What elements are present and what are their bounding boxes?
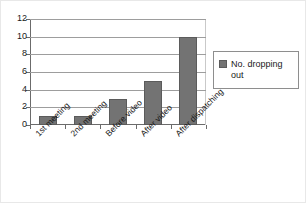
- chart-screenshot: 024681012 1st meeting2nd meetingBefore v…: [0, 0, 306, 203]
- y-axis-tick-label: 4: [5, 85, 27, 94]
- legend-entry: No. dropping out: [219, 59, 294, 81]
- y-axis-tick-label: 10: [5, 32, 27, 41]
- y-axis-labels: 024681012: [1, 19, 27, 125]
- bar-chart: 024681012 1st meeting2nd meetingBefore v…: [1, 1, 306, 203]
- y-axis-tick-label: 0: [5, 120, 27, 129]
- y-axis-tick-label: 8: [5, 49, 27, 58]
- y-axis-tick-label: 12: [5, 14, 27, 23]
- legend-color-swatch: [219, 60, 227, 68]
- x-axis-labels: 1st meeting2nd meetingBefore videoAfter …: [30, 125, 230, 203]
- gridline: [30, 19, 206, 20]
- y-axis-tick-label: 6: [5, 67, 27, 76]
- legend-label: No. dropping out: [231, 59, 294, 81]
- chart-legend: No. dropping out: [213, 51, 299, 89]
- y-axis-tick-label: 2: [5, 102, 27, 111]
